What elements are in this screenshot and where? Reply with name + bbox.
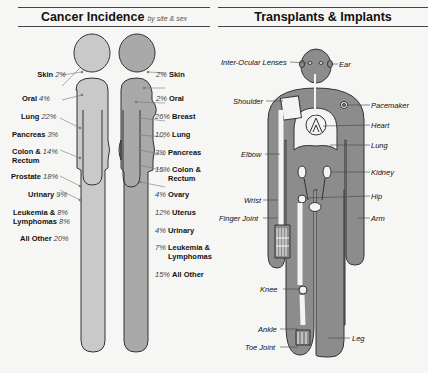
transplant-figure [268,49,364,357]
label-shoulder: Shoulder [233,97,263,106]
female-label-all-other: 15% All Other [155,270,204,279]
label-kidney: Kidney [371,168,394,177]
female-label-colon-rectum: 15% Colon &Rectum [155,165,201,183]
label-arm: Arm [371,214,385,223]
label-finger-joint: Finger Joint [219,214,258,223]
female-figure [119,34,156,352]
male-label-prostate: Prostate 18% [11,172,58,181]
label-leg: Leg [352,334,365,343]
label-heart: Heart [371,121,389,130]
female-label-lung: 10% Lung [155,130,190,139]
label-lung: Lung [371,141,388,150]
female-label-uterus: 12% Uterus [155,208,196,217]
female-label-pancreas: 3% Pancreas [155,148,201,157]
female-label-ovary: 4% Ovary [155,190,189,199]
male-label-colon-rectum: Colon & 14%Rectum [12,147,58,165]
label-knee: Knee [260,285,278,294]
male-label-all-other: All Other 20% [20,234,69,243]
label-hip: Hip [371,192,382,201]
label-ear: Ear [339,60,351,69]
figures [0,0,428,373]
female-label-skin: 2% Skin [156,70,185,79]
label-ankle: Ankle [258,325,277,334]
male-figure [74,34,110,352]
male-label-oral: Oral 4% [22,94,50,103]
label-wrist: Wrist [244,196,261,205]
label-toe-joint: Toe Joint [245,343,275,352]
female-label-urinary: 4% Urinary [155,226,194,235]
male-label-lung: Lung 22% [21,112,56,121]
label-pacemaker: Pacemaker [371,101,409,110]
label-elbow: Elbow [241,150,261,159]
label-inter-ocular-lenses: Inter-Ocular Lenses [221,58,287,67]
male-label-pancreas: Pancreas 3% [12,130,58,139]
female-label-leukemia: 7% Leukemia &Lymphomas [155,243,212,261]
male-label-skin: Skin 2% [37,70,66,79]
female-label-oral: 2% Oral [156,94,184,103]
female-label-breast: 26% Breast [155,112,195,121]
male-label-leukemia: Leukemia & 8%Lymphomas 8% [13,208,70,226]
male-label-urinary: Urinary 9% [28,190,67,199]
